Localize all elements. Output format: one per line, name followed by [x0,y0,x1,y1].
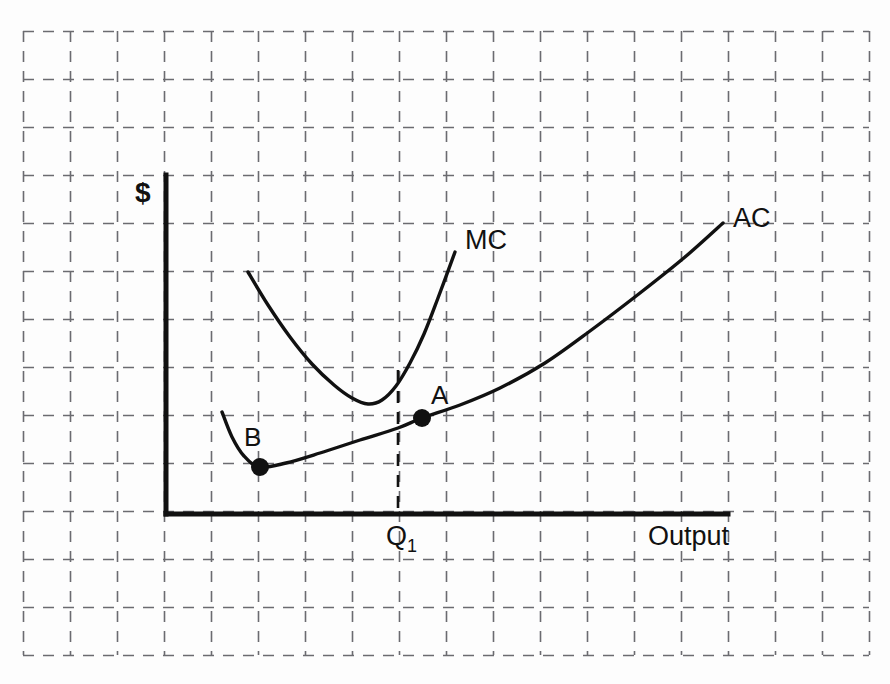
curves [222,223,723,467]
point-a-label: A [431,380,449,410]
background-grid [23,31,870,656]
mc-curve-label: MC [465,225,507,255]
ac-curve-label: AC [733,203,771,233]
cost-curves-diagram: $ Output MC AC A B Q1 [0,0,890,684]
q1-label-main: Q [386,521,407,551]
point-b-label: B [244,422,261,452]
labels: $ Output MC AC A B Q1 [135,177,771,556]
mc-curve [248,252,455,404]
figure-canvas: $ Output MC AC A B Q1 [0,0,890,684]
y-axis-label: $ [135,177,151,208]
point-a-marker [413,409,431,427]
x-axis-label: Output [648,521,730,551]
q1-label: Q1 [386,521,417,556]
point-b-marker [251,458,269,476]
q1-label-subscript: 1 [407,536,417,556]
